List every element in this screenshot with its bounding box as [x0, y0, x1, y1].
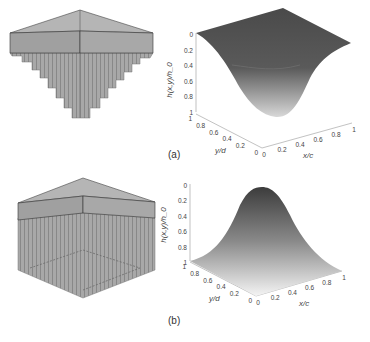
- y-tick-label: 0.6: [203, 277, 212, 284]
- x-tick-label: 0.2: [271, 294, 280, 301]
- x-tick-label: 0.4: [288, 289, 297, 296]
- x-tick-label: 0.6: [305, 284, 314, 291]
- y-tick-label: 0: [254, 149, 258, 156]
- x-tick-label: 0.8: [322, 279, 331, 286]
- y-tick-label: 0.4: [223, 135, 232, 142]
- y-tick-label: 0.6: [209, 129, 218, 136]
- panel-label-a: (a): [168, 149, 180, 160]
- plate-top-face: [10, 10, 153, 33]
- z-tick-label: 0.2: [184, 47, 193, 54]
- z-tick-label: 0.4: [184, 62, 193, 69]
- bowl-surface: [196, 8, 351, 117]
- y-axis: [196, 114, 262, 148]
- panel-label-b: (b): [168, 315, 180, 326]
- z-tick-label: 0.6: [178, 228, 187, 235]
- surface-plot-b: 00.20.40.60.8100.20.40.60.8100.20.40.60.…: [159, 182, 346, 308]
- z-tick-label: 0.8: [178, 244, 187, 251]
- y-tick-label: 0.8: [196, 122, 205, 129]
- y-tick-label: 0.2: [230, 290, 239, 297]
- dome-surface: [190, 187, 342, 296]
- x-tick-label: 0: [256, 299, 260, 306]
- pillar-block-b: [18, 178, 155, 298]
- x-tick-label: 0.2: [277, 146, 286, 153]
- z-tick-label: 0: [189, 31, 193, 38]
- uniform-pillars: [18, 213, 155, 298]
- surface-plot-a: 00.20.40.60.8100.20.40.60.8100.20.40.60.…: [165, 8, 356, 160]
- y-tick-label: 1: [188, 115, 192, 122]
- x-axis-label: x/c: [302, 151, 313, 160]
- y-tick-label: 0: [248, 297, 252, 304]
- x-axis-label: x/c: [298, 299, 309, 308]
- pyramid-pillars-right: [80, 53, 153, 118]
- y-axis-label: y/d: [208, 294, 220, 303]
- x-tick-label: 1: [342, 274, 346, 281]
- pyramid-pillars-left: [10, 53, 80, 118]
- figure-canvas: 00.20.40.60.8100.20.40.60.8100.20.40.60.…: [0, 0, 370, 342]
- z-tick-label: 0: [183, 182, 187, 189]
- z-axis-label: h(x,y)/h_0: [165, 62, 174, 98]
- z-tick-label: 0.2: [178, 197, 187, 204]
- x-tick-label: 0.4: [295, 141, 304, 148]
- x-tick-label: 0.6: [313, 136, 322, 143]
- z-tick-label: 0.4: [178, 213, 187, 220]
- x-tick-label: 0.8: [331, 131, 340, 138]
- y-tick-label: 0.2: [236, 142, 245, 149]
- y-tick-label: 0.4: [217, 283, 226, 290]
- x-tick-label: 0: [262, 151, 266, 158]
- y-tick-label: 1: [182, 263, 186, 270]
- plate-left-face: [10, 31, 80, 53]
- x-tick-label: 1: [352, 126, 356, 133]
- pillar-block-a: [10, 10, 153, 118]
- y-axis-label: y/d: [214, 146, 226, 155]
- z-tick-label: 0.6: [184, 78, 193, 85]
- y-tick-label: 0.8: [190, 270, 199, 277]
- plate-right-face: [80, 31, 153, 53]
- z-tick-label: 0.8: [184, 93, 193, 100]
- z-axis-label: h(x,y)/h_0: [159, 207, 168, 243]
